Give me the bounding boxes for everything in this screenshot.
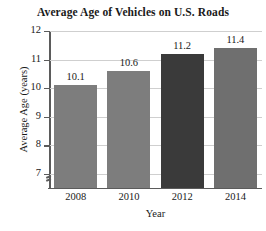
bar-value-label: 10.6 [99, 57, 159, 68]
x-tick-label: 2012 [152, 191, 212, 203]
bar-chart: Average Age of Vehicles on U.S. Roads Av… [0, 0, 266, 231]
bar [214, 48, 257, 188]
bar [54, 85, 97, 188]
bar-value-label: 11.4 [205, 34, 265, 45]
y-tick-label: 11 [0, 54, 41, 64]
y-tick-label: 10 [0, 82, 41, 92]
y-tick-label: 9 [0, 111, 41, 121]
y-axis-line [49, 31, 51, 188]
y-tick-mark [44, 60, 50, 61]
x-tick-label: 2008 [46, 191, 106, 203]
y-tick-mark [44, 88, 50, 89]
axis-break-icon [46, 176, 51, 180]
bar-value-label: 11.2 [152, 40, 212, 51]
y-tick-mark [44, 31, 50, 32]
bar [161, 54, 204, 188]
y-tick-label: 12 [0, 25, 41, 35]
bar-value-label: 10.1 [46, 71, 106, 82]
chart-title: Average Age of Vehicles on U.S. Roads [0, 6, 266, 19]
bar [107, 71, 150, 188]
y-tick-mark [44, 117, 50, 118]
y-tick-mark [44, 174, 50, 175]
y-tick-label: 7 [0, 168, 41, 178]
x-tick-label: 2014 [205, 191, 265, 203]
x-axis-label: Year [49, 208, 262, 219]
x-tick-label: 2010 [99, 191, 159, 203]
gridline [49, 31, 262, 32]
y-tick-mark [44, 145, 50, 146]
y-tick-label: 8 [0, 139, 41, 149]
